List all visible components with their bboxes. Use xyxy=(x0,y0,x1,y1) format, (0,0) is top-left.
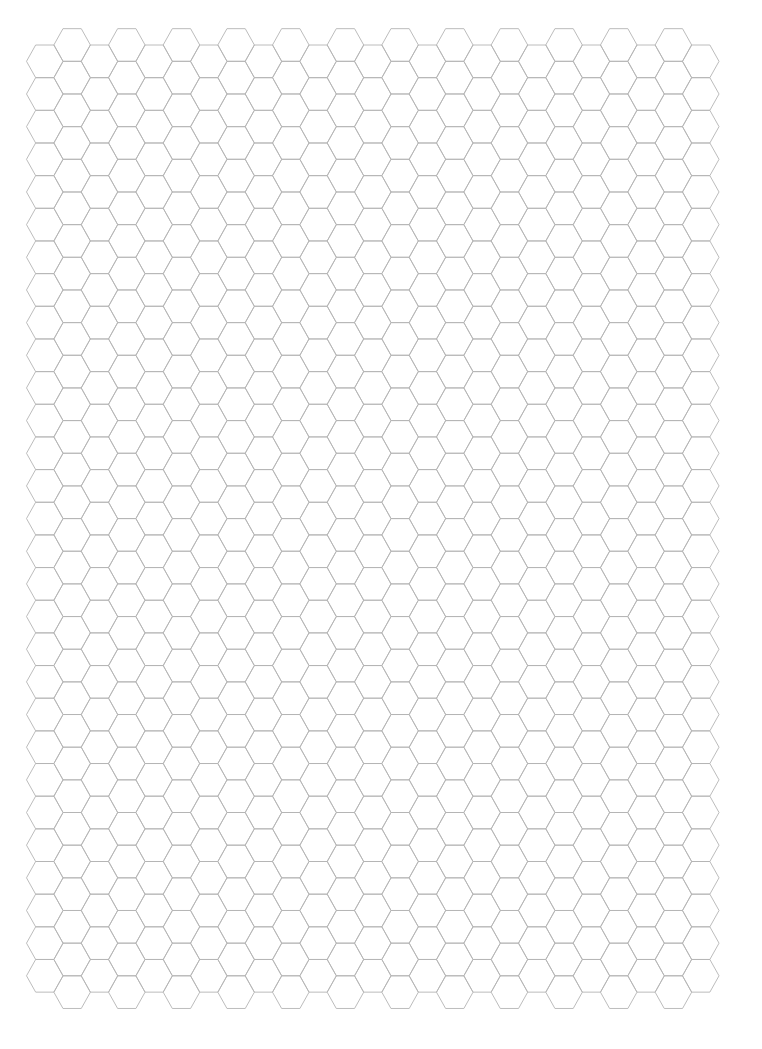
hex-cells xyxy=(27,29,720,1009)
hex-grid xyxy=(27,29,720,1009)
hex-grid-paper xyxy=(0,0,762,1049)
